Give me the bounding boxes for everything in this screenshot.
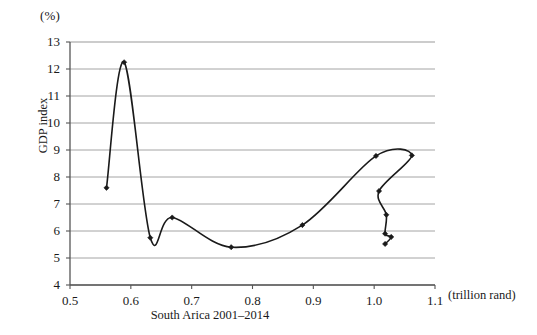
data-point-marker	[170, 215, 175, 220]
data-point-marker	[384, 212, 389, 217]
plot-area	[0, 0, 537, 335]
data-point-marker	[409, 153, 414, 158]
chart-figure: (%) GDP index South Arica 2001–2014 (tri…	[0, 0, 537, 335]
axes	[66, 42, 435, 289]
series-0	[104, 60, 415, 250]
series-line	[107, 62, 412, 248]
data-series	[104, 60, 415, 250]
gridlines	[70, 42, 435, 285]
data-point-marker	[104, 185, 109, 190]
data-point-marker	[229, 245, 234, 250]
data-point-marker	[148, 235, 153, 240]
